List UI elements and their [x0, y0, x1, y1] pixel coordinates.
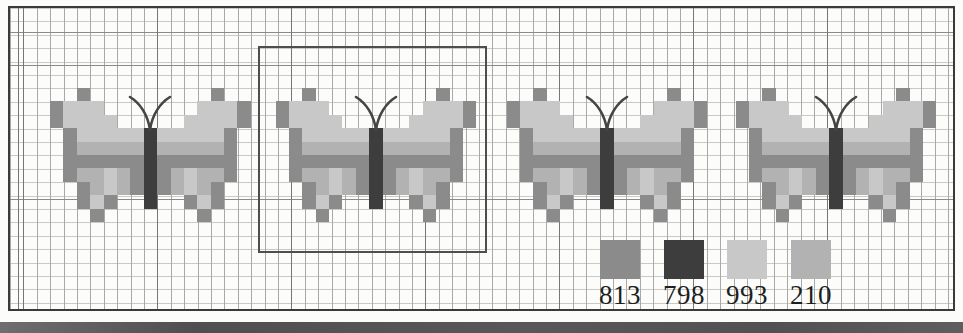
stitch-cell: [117, 142, 130, 155]
stitch-cell: [816, 155, 829, 168]
stitch-cell: [789, 182, 802, 195]
stitch-cell: [547, 168, 560, 181]
stitch-cell: [694, 88, 707, 101]
stitch-cell: [681, 88, 694, 101]
stitch-cell: [197, 168, 210, 181]
stitch-cell: [640, 142, 653, 155]
stitch-cell: [63, 155, 76, 168]
stitch-cell: [104, 195, 117, 208]
stitch-cell: [762, 168, 775, 181]
stitch-cell: [802, 155, 815, 168]
stitch-cell: [224, 168, 237, 181]
stitch-cell: [533, 88, 546, 101]
stitch-cell: [77, 155, 90, 168]
stitch-cell: [654, 88, 667, 101]
stitch-cell: [197, 115, 210, 128]
stitch-cell: [63, 209, 76, 222]
stitch-cell: [171, 195, 184, 208]
stitch-cell: [237, 155, 250, 168]
stitch-cell: [776, 155, 789, 168]
stitch-cell: [50, 168, 63, 181]
stitch-cell: [130, 142, 143, 155]
stitch-cell: [117, 195, 130, 208]
stitch-cell: [923, 88, 936, 101]
stitch-cell: [614, 155, 627, 168]
stitch-cell: [130, 182, 143, 195]
stitch-cell: [762, 115, 775, 128]
stitch-cell: [883, 128, 896, 141]
stitch-cell: [520, 155, 533, 168]
stitch-cell: [640, 168, 653, 181]
stitch-cell: [776, 142, 789, 155]
stitch-cell: [856, 168, 869, 181]
stitch-cell: [869, 168, 882, 181]
stitch-cell: [184, 182, 197, 195]
stitch-cell: [171, 168, 184, 181]
stitch-cell: [816, 195, 829, 208]
stitch-cell: [211, 115, 224, 128]
stitch-cell: [681, 115, 694, 128]
butterfly-antennae-icon: [805, 95, 867, 131]
stitch-cell: [520, 195, 533, 208]
stitch-cell: [587, 195, 600, 208]
stitch-cell: [184, 155, 197, 168]
stitch-cell: [896, 142, 909, 155]
stitch-cell: [533, 209, 546, 222]
stitch-cell: [50, 155, 63, 168]
stitch-cell: [856, 209, 869, 222]
stitch-cell: [789, 88, 802, 101]
stitch-cell: [667, 128, 680, 141]
stitch-cell: [237, 101, 250, 114]
stitch-cell: [237, 128, 250, 141]
stitch-cell: [736, 128, 749, 141]
stitch-cell: [667, 209, 680, 222]
stitch-cell: [883, 101, 896, 114]
stitch-cell: [694, 168, 707, 181]
stitch-cell: [547, 182, 560, 195]
stitch-cell: [736, 101, 749, 114]
stitch-cell: [520, 168, 533, 181]
stitch-cell: [910, 115, 923, 128]
stitch-cell: [211, 155, 224, 168]
stitch-cell: [573, 182, 586, 195]
stitch-cell: [789, 142, 802, 155]
stitch-cell: [197, 195, 210, 208]
stitch-cell: [681, 101, 694, 114]
stitch-cell: [77, 182, 90, 195]
stitch-cell: [681, 155, 694, 168]
stitch-cell: [736, 88, 749, 101]
stitch-cell: [789, 168, 802, 181]
stitch-cell: [736, 115, 749, 128]
stitch-cell: [560, 142, 573, 155]
stitch-cell: [144, 168, 157, 181]
stitch-cell: [157, 182, 170, 195]
stitch-cell: [171, 155, 184, 168]
stitch-cell: [883, 155, 896, 168]
stitch-cell: [224, 115, 237, 128]
stitch-cell: [63, 195, 76, 208]
stitch-cell: [130, 209, 143, 222]
stitch-cell: [547, 115, 560, 128]
stitch-cell: [520, 182, 533, 195]
stitch-cell: [654, 182, 667, 195]
stitch-cell: [104, 168, 117, 181]
stitch-cell: [910, 155, 923, 168]
stitch-cell: [63, 142, 76, 155]
stitch-cell: [802, 209, 815, 222]
stitch-cell: [144, 155, 157, 168]
stitch-cell: [910, 182, 923, 195]
stitch-cell: [211, 101, 224, 114]
butterfly-antennae-icon: [119, 95, 181, 131]
stitch-cell: [802, 195, 815, 208]
stitch-cell: [640, 101, 653, 114]
stitch-cell: [883, 195, 896, 208]
stitch-cell: [627, 155, 640, 168]
stitch-cell: [184, 209, 197, 222]
stitch-cell: [923, 168, 936, 181]
stitch-cell: [736, 168, 749, 181]
stitch-cell: [869, 155, 882, 168]
stitch-cell: [896, 209, 909, 222]
stitch-cell: [507, 101, 520, 114]
stitch-cell: [77, 115, 90, 128]
stitch-cell: [776, 168, 789, 181]
